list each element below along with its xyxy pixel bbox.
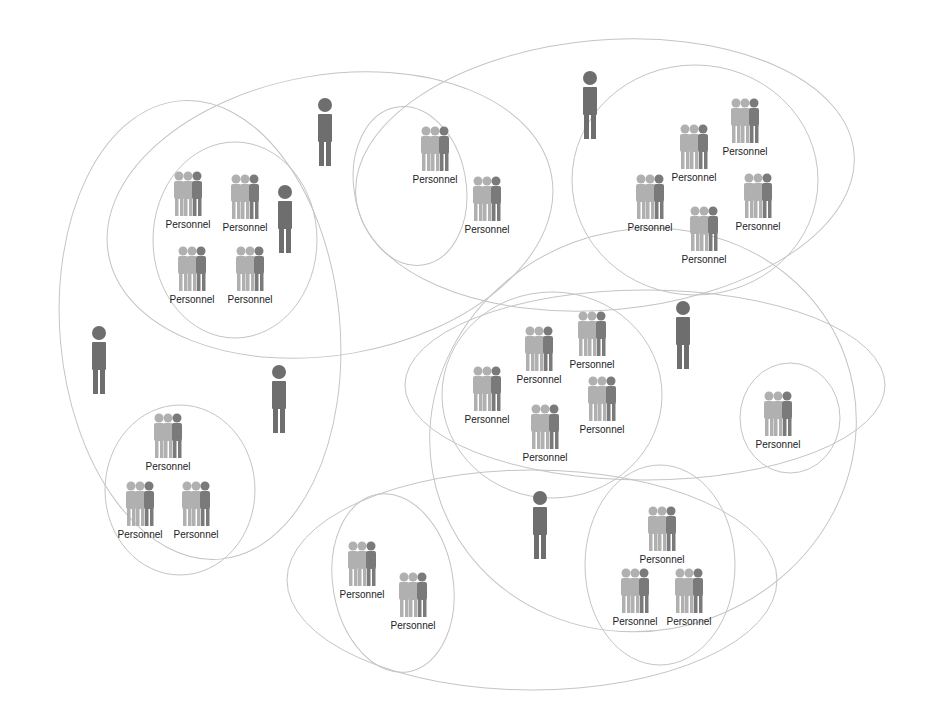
personnel-group: Personnel <box>639 507 684 566</box>
grouping-ellipse <box>341 97 479 274</box>
grouping-ellipses <box>40 19 913 692</box>
personnel-group: Personnel <box>464 367 509 426</box>
personnel-group-icon <box>421 127 449 172</box>
personnel-group: Personnel <box>671 125 716 184</box>
personnel-group: Personnel <box>516 327 561 386</box>
personnel-group-icon <box>744 174 772 219</box>
person-icon <box>278 185 292 253</box>
personnel-label: Personnel <box>639 554 684 565</box>
personnel-groups: PersonnelPersonnelPersonnelPersonnelPers… <box>117 99 800 632</box>
grouping-ellipse <box>84 38 576 392</box>
personnel-group-icon <box>690 207 718 252</box>
personnel-group: Personnel <box>755 392 800 451</box>
personnel-group: Personnel <box>627 175 672 234</box>
personnel-group: Personnel <box>412 127 457 186</box>
personnel-group-icon <box>764 392 792 437</box>
person-icon <box>583 71 597 139</box>
personnel-label: Personnel <box>165 219 210 230</box>
personnel-label: Personnel <box>681 254 726 265</box>
person-icon <box>533 491 547 559</box>
personnel-label: Personnel <box>222 222 267 233</box>
personnel-label: Personnel <box>627 222 672 233</box>
personnel-group: Personnel <box>117 482 162 541</box>
personnel-group-icon <box>348 542 376 587</box>
personnel-group: Personnel <box>681 207 726 266</box>
personnel-group: Personnel <box>735 174 780 233</box>
personnel-group: Personnel <box>339 542 384 601</box>
personnel-group: Personnel <box>169 247 214 306</box>
personnel-label: Personnel <box>390 620 435 631</box>
personnel-label: Personnel <box>464 414 509 425</box>
personnel-group-icon <box>648 507 676 552</box>
personnel-group: Personnel <box>222 175 267 234</box>
network-diagram: PersonnelPersonnelPersonnelPersonnelPers… <box>0 0 931 714</box>
personnel-label: Personnel <box>666 616 711 627</box>
grouping-ellipse <box>373 169 914 692</box>
personnel-group-icon <box>126 482 154 527</box>
person-icon <box>676 301 690 369</box>
personnel-label: Personnel <box>516 374 561 385</box>
personnel-group-icon <box>231 175 259 220</box>
personnel-label: Personnel <box>412 174 457 185</box>
personnel-group-icon <box>154 414 182 459</box>
personnel-group-icon <box>621 569 649 614</box>
personnel-label: Personnel <box>117 529 162 540</box>
personnel-group-icon <box>588 377 616 422</box>
personnel-group: Personnel <box>579 377 624 436</box>
personnel-group: Personnel <box>569 312 614 371</box>
personnel-label: Personnel <box>569 359 614 370</box>
personnel-group: Personnel <box>173 482 218 541</box>
personnel-group: Personnel <box>165 172 210 231</box>
personnel-group-icon <box>399 573 427 618</box>
personnel-label: Personnel <box>755 439 800 450</box>
grouping-ellipse <box>585 465 735 665</box>
personnel-label: Personnel <box>464 224 509 235</box>
person-icon <box>272 365 286 433</box>
personnel-group-icon <box>636 175 664 220</box>
personnel-group-icon <box>675 569 703 614</box>
personnel-group-icon <box>473 177 501 222</box>
personnel-group-icon <box>578 312 606 357</box>
personnel-group-icon <box>531 405 559 450</box>
personnel-group: Personnel <box>522 405 567 464</box>
personnel-label: Personnel <box>579 424 624 435</box>
personnel-label: Personnel <box>671 172 716 183</box>
personnel-label: Personnel <box>735 221 780 232</box>
personnel-label: Personnel <box>722 146 767 157</box>
personnel-group: Personnel <box>227 247 272 306</box>
personnel-label: Personnel <box>145 461 190 472</box>
personnel-group-icon <box>525 327 553 372</box>
personnel-group-icon <box>680 125 708 170</box>
person-icon <box>318 98 332 166</box>
personnel-group-icon <box>178 247 206 292</box>
personnel-group: Personnel <box>390 573 435 632</box>
personnel-group-icon <box>731 99 759 144</box>
personnel-label: Personnel <box>612 616 657 627</box>
personnel-group: Personnel <box>145 414 190 473</box>
personnel-group-icon <box>182 482 210 527</box>
personnel-label: Personnel <box>339 589 384 600</box>
personnel-group: Personnel <box>464 177 509 236</box>
personnel-label: Personnel <box>169 294 214 305</box>
person-icon <box>92 326 106 394</box>
personnel-group-icon <box>174 172 202 217</box>
personnel-group: Personnel <box>612 569 657 628</box>
personnel-group: Personnel <box>722 99 767 158</box>
personnel-group-icon <box>236 247 264 292</box>
personnel-group-icon <box>473 367 501 412</box>
personnel-label: Personnel <box>173 529 218 540</box>
personnel-label: Personnel <box>522 452 567 463</box>
personnel-label: Personnel <box>227 294 272 305</box>
personnel-group: Personnel <box>666 569 711 628</box>
